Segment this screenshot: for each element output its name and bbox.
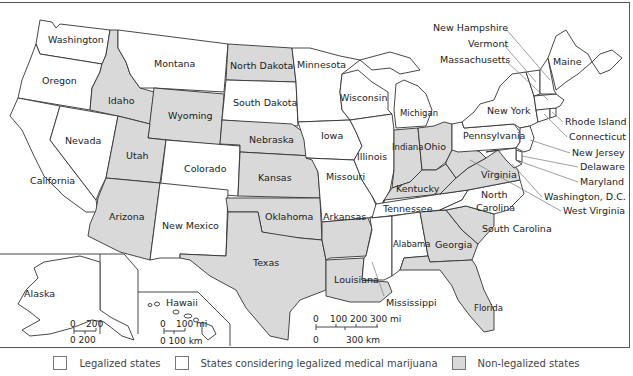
label-pennsylvania: Pennsylvania	[463, 130, 525, 141]
label-colorado: Colorado	[184, 163, 227, 174]
legend-label-considering: States considering legalized medical mar…	[201, 358, 438, 369]
label-new-mexico: New Mexico	[162, 220, 219, 231]
legend-label-legalized: Legalized states	[79, 358, 160, 369]
label-connecticut: Connecticut	[569, 131, 626, 142]
label-oklahoma: Oklahoma	[265, 211, 313, 222]
label-new-jersey: New Jersey	[572, 147, 625, 158]
label-north-carolina-1: North	[481, 189, 508, 200]
label-utah: Utah	[126, 150, 149, 161]
state-massachusetts	[534, 94, 564, 110]
svg-text:100: 100	[330, 314, 347, 324]
svg-text:0: 0	[313, 314, 319, 324]
label-indiana: Indiana	[392, 142, 423, 152]
label-illinois: Illinois	[357, 151, 387, 162]
label-virginia: Virginia	[481, 169, 517, 180]
label-georgia: Georgia	[435, 239, 472, 250]
label-alabama: Alabama	[393, 239, 430, 249]
scale-bar-hawaii: 0 100 mi 0 100 km	[160, 319, 207, 346]
label-michigan: Michigan	[400, 108, 438, 118]
svg-text:300 mi: 300 mi	[370, 314, 401, 324]
label-arizona: Arizona	[109, 211, 145, 222]
label-west-virginia: West Virginia	[563, 205, 625, 216]
canada-maritimes	[592, 50, 622, 74]
legend: Legalized states States considering lega…	[0, 350, 633, 376]
label-rhode-island: Rhode Island	[565, 116, 627, 127]
legend-item-non-legalized: Non-legalized states	[452, 356, 580, 370]
label-nevada: Nevada	[65, 135, 101, 146]
label-maryland: Maryland	[580, 176, 624, 187]
legend-swatch-legalized	[53, 356, 67, 370]
label-kentucky: Kentucky	[396, 183, 440, 194]
label-new-york: New York	[487, 105, 531, 116]
svg-text:0: 0	[313, 335, 319, 345]
label-hawaii: Hawaii	[166, 297, 198, 308]
label-wyoming: Wyoming	[168, 110, 213, 121]
state-arkansas	[322, 218, 372, 260]
label-oregon: Oregon	[42, 75, 77, 86]
label-florida: Florida	[474, 303, 503, 313]
scale-bar-alaska: 0 200 0 200	[70, 319, 103, 345]
label-massachusetts: Massachusetts	[440, 54, 510, 65]
label-washington-dc: Washington, D.C.	[544, 191, 626, 202]
label-mississippi: Mississippi	[386, 297, 437, 308]
label-idaho: Idaho	[108, 95, 135, 106]
label-arkansas: Arkansas	[323, 211, 366, 222]
label-south-dakota: South Dakota	[233, 97, 297, 108]
label-minnesota: Minnesota	[297, 59, 346, 70]
svg-text:0: 0	[70, 319, 76, 329]
label-north-dakota: North Dakota	[230, 60, 293, 71]
label-kansas: Kansas	[258, 172, 292, 183]
label-vermont: Vermont	[468, 38, 508, 49]
svg-text:200: 200	[86, 319, 103, 329]
label-south-carolina: South Carolina	[482, 223, 552, 234]
svg-text:100 mi: 100 mi	[176, 319, 207, 329]
label-wisconsin: Wisconsin	[340, 92, 387, 103]
legend-item-legalized: Legalized states	[53, 356, 160, 370]
label-maine: Maine	[553, 56, 582, 67]
label-ohio: Ohio	[424, 141, 446, 152]
legend-swatch-non-legalized	[452, 356, 466, 370]
svg-text:300 km: 300 km	[346, 335, 380, 345]
label-california: California	[30, 175, 75, 186]
state-florida	[400, 256, 494, 332]
label-montana: Montana	[154, 58, 195, 69]
label-iowa: Iowa	[321, 130, 343, 141]
legend-item-considering: States considering legalized medical mar…	[175, 356, 438, 370]
us-map: Washington Oregon California Nevada Idah…	[0, 0, 633, 376]
label-nebraska: Nebraska	[249, 134, 294, 145]
svg-text:200: 200	[350, 314, 367, 324]
legend-label-non-legalized: Non-legalized states	[478, 358, 580, 369]
svg-text:0 100 km: 0 100 km	[160, 336, 203, 346]
legend-swatch-considering	[175, 356, 189, 370]
scale-bar-mainland: 0 100 200 300 mi 0 300 km	[313, 314, 401, 345]
label-alaska: Alaska	[24, 288, 55, 299]
label-tennessee: Tennessee	[382, 203, 433, 214]
label-missouri: Missouri	[326, 171, 365, 182]
label-texas: Texas	[252, 257, 279, 268]
label-delaware: Delaware	[580, 161, 625, 172]
label-louisiana: Louisiana	[334, 274, 379, 285]
svg-text:0: 0	[160, 319, 166, 329]
label-new-hampshire: New Hampshire	[433, 22, 508, 33]
label-north-carolina-2: Carolina	[476, 202, 515, 213]
svg-text:0 200: 0 200	[70, 335, 96, 345]
label-washington: Washington	[48, 34, 104, 45]
